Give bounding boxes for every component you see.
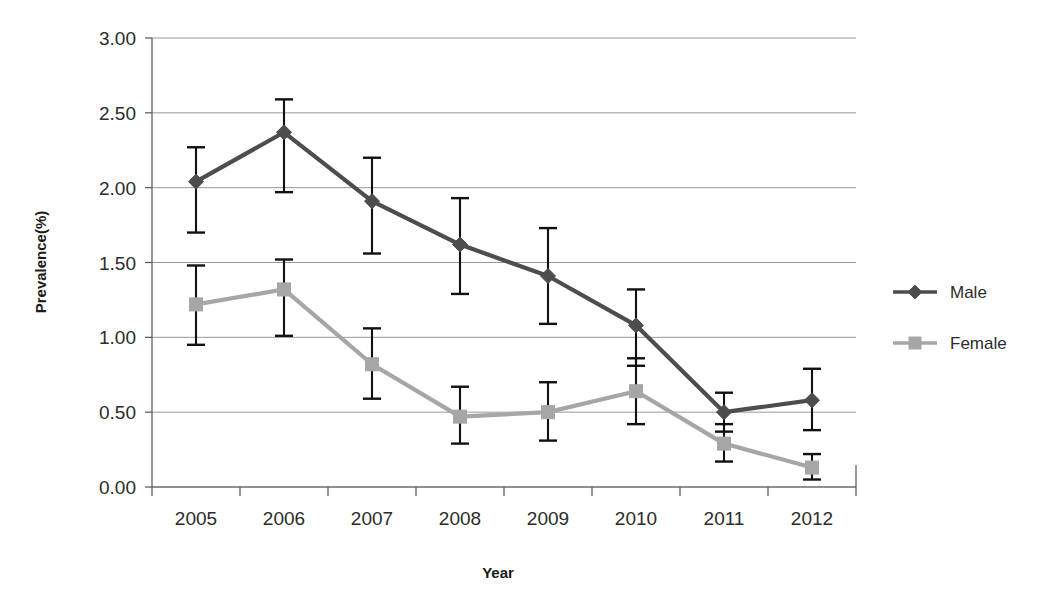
x-axis-tick-label: 2005 — [175, 508, 217, 529]
y-axis-title: Prevalence(%) — [32, 211, 49, 314]
square-marker — [630, 385, 643, 398]
y-axis-tick-label: 0.00 — [99, 477, 136, 498]
x-axis-tick-label: 2007 — [351, 508, 393, 529]
prevalence-line-chart: 0.000.501.001.502.002.503.00 20052006200… — [0, 0, 1056, 613]
y-axis-tick-label: 0.50 — [99, 402, 136, 423]
x-axis-tick-label: 2006 — [263, 508, 305, 529]
y-axis-tick-label: 3.00 — [99, 28, 136, 49]
square-marker — [366, 358, 379, 371]
square-marker — [542, 406, 555, 419]
x-axis-tick-label: 2009 — [527, 508, 569, 529]
x-axis-title: Year — [482, 564, 514, 581]
square-marker — [718, 437, 731, 450]
y-axis-tick-label: 1.00 — [99, 327, 136, 348]
legend-label-female: Female — [950, 334, 1007, 353]
square-marker — [190, 298, 203, 311]
chart-container: 0.000.501.001.502.002.503.00 20052006200… — [0, 0, 1056, 613]
y-axis-tick-label: 1.50 — [99, 253, 136, 274]
x-axis-tick-label: 2010 — [615, 508, 657, 529]
y-axis-tick-label: 2.50 — [99, 103, 136, 124]
x-axis-tick-label: 2011 — [704, 508, 745, 529]
square-marker — [278, 283, 291, 296]
square-marker — [806, 461, 819, 474]
square-marker — [454, 410, 467, 423]
legend-label-male: Male — [950, 283, 987, 302]
y-axis-tick-label: 2.00 — [99, 178, 136, 199]
x-axis-tick-label: 2008 — [439, 508, 481, 529]
square-marker — [909, 337, 921, 349]
x-axis-tick-label: 2012 — [791, 508, 833, 529]
